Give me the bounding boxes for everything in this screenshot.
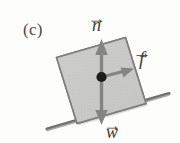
physics-figure-panel-c: (c) → n → f → w	[0, 0, 180, 143]
vector-label-friction: → f	[139, 49, 144, 68]
panel-label: (c)	[23, 20, 43, 40]
vector-accent-weight: →	[103, 116, 121, 134]
vector-label-weight: → w	[106, 123, 118, 141]
vector-accent-friction: →	[133, 43, 152, 62]
vector-accent-normal: →	[88, 9, 106, 27]
vector-label-normal: → n	[92, 16, 101, 34]
center-of-mass-dot	[96, 72, 106, 82]
